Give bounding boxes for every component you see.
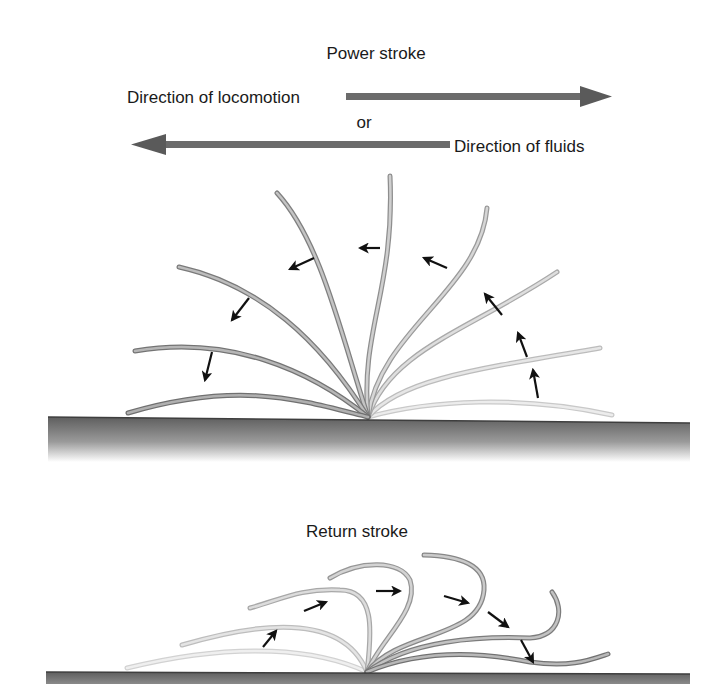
cilia-stroke-diagram: Power stroke Direction of locomotion or …: [0, 0, 726, 684]
power-stroke-cilia: [128, 176, 612, 417]
arrow-icon: [205, 352, 212, 380]
locomotion-label: Direction of locomotion: [127, 88, 300, 107]
cilium: [128, 395, 368, 417]
return-stroke-title: Return stroke: [306, 522, 408, 541]
fluids-label: Direction of fluids: [454, 137, 584, 156]
cell-surface: [48, 417, 690, 462]
arrow-icon: [518, 333, 527, 357]
arrow-icon: [232, 298, 249, 320]
cilium: [368, 402, 612, 417]
fluids-arrow-icon: [131, 134, 450, 155]
arrow-icon: [424, 258, 447, 268]
arrow-icon: [488, 612, 508, 627]
power-motion-arrows: [205, 248, 538, 398]
arrow-icon: [304, 602, 326, 611]
arrow-icon: [444, 596, 468, 603]
arrow-icon: [263, 631, 276, 647]
or-label: or: [356, 113, 371, 132]
power-stroke-title: Power stroke: [326, 44, 425, 63]
cilium: [127, 651, 367, 672]
cell-surface-return: [46, 672, 690, 684]
cilium: [367, 654, 608, 672]
locomotion-arrow-icon: [346, 86, 612, 107]
return-stroke-cilia: [127, 555, 608, 672]
arrow-icon: [533, 370, 538, 398]
arrow-icon: [290, 258, 314, 269]
